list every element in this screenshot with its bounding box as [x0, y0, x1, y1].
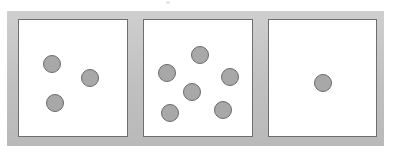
circle-2-6	[161, 104, 179, 122]
circle-2-2	[158, 64, 176, 82]
circle-1-3	[46, 94, 64, 112]
circle-1-2	[81, 69, 99, 87]
circle-2-3	[221, 68, 239, 86]
circle-3-1	[314, 74, 332, 92]
panel-left	[18, 19, 128, 137]
circle-1-1	[43, 55, 61, 73]
scan-speck	[166, 1, 170, 4]
figure-canvas	[0, 0, 393, 164]
circle-2-4	[183, 83, 201, 101]
circle-2-5	[214, 101, 232, 119]
circle-2-1	[191, 46, 209, 64]
